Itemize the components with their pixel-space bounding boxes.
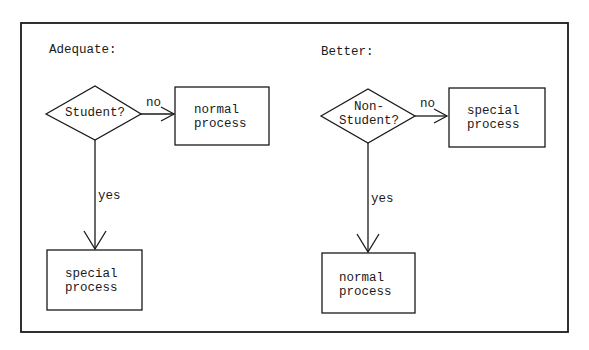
yes-label-2: yes (371, 192, 394, 207)
heading-better: Better: (321, 45, 374, 60)
box-text-process-1: process (194, 117, 247, 132)
flowchart-comparison-figure: Adequate: Student? no normal process yes… (0, 0, 589, 350)
decision-label-non: Non- (330, 100, 408, 115)
box-text-process-3: process (65, 281, 118, 296)
no-label-2: no (420, 97, 435, 112)
box-text-process-4: process (339, 285, 392, 300)
box-text-special-1: special (65, 267, 118, 282)
decision-label-student: Student? (56, 106, 134, 121)
box-text-special-2: special (467, 104, 520, 119)
box-text-normal-2: normal (339, 271, 384, 286)
box-text-normal-1: normal (194, 103, 239, 118)
decision-label-student-2: Student? (330, 114, 408, 129)
box-text-process-2: process (467, 118, 520, 133)
heading-adequate: Adequate: (49, 43, 117, 58)
yes-label-1: yes (98, 189, 121, 204)
no-label-1: no (146, 96, 161, 111)
